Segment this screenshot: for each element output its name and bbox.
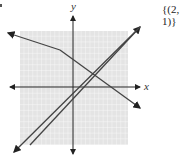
solution-set: {(2, 1)} — [162, 3, 195, 27]
y-axis-label: y — [71, 0, 76, 12]
x-axis-label: x — [144, 80, 149, 92]
